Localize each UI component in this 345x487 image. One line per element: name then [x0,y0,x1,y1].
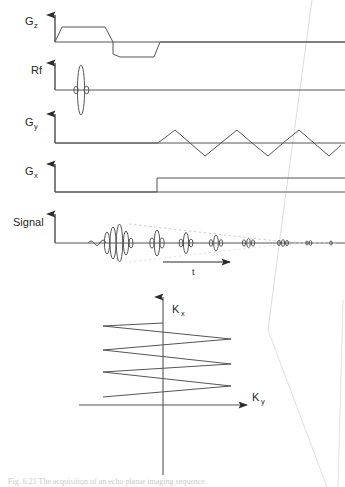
figure-caption-text: Fig. 6.21 The acquisition of an echo pla… [8,477,205,486]
gy-label-subscript: y [34,122,38,131]
kspace-kx-subscript: x [181,309,185,318]
channel-gz: G z [25,15,345,57]
figure-root: G z Rf G y G [0,0,345,487]
gx-readout-plateau [55,178,345,192]
kspace-plot: K x K y [79,297,265,475]
pulse-sequence-figure: G z Rf G y G [0,0,345,487]
kspace-ky-subscript: y [261,397,265,406]
time-axis: t [163,262,230,277]
channel-gy: G y [25,114,345,156]
kspace-trajectory [103,323,231,397]
rf-label: Rf [31,64,43,76]
figure-caption: Fig. 6.21 The acquisition of an echo pla… [8,477,205,486]
kspace-kx-label: K [172,303,180,315]
time-axis-label: t [192,267,195,277]
gy-label: G [25,116,34,128]
gx-label: G [25,165,34,177]
gz-label: G [25,15,34,27]
signal-label: Signal [13,216,44,228]
kspace-ky-label: K [252,391,260,403]
channel-signal: Signal [13,214,345,262]
gx-label-subscript: x [34,171,38,180]
gz-label-subscript: z [34,21,38,30]
channel-gx: G x [25,164,345,192]
